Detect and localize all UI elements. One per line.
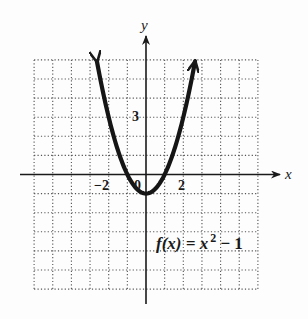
x-tick-label-neg2: −2	[94, 178, 109, 193]
formula-body: (x) = x	[162, 234, 209, 253]
x-tick-label-2: 2	[178, 178, 185, 193]
axes	[20, 36, 280, 304]
origin-label: 0	[134, 178, 141, 193]
x-axis-label: x	[284, 166, 292, 182]
formula-tail: − 1	[216, 234, 243, 253]
function-formula: f(x) = x2 − 1	[156, 231, 243, 253]
parabola-plot: y x −2 0 2 3 f(x) = x2 − 1	[0, 0, 308, 319]
y-axis-label: y	[139, 17, 148, 33]
graph-figure: y x −2 0 2 3 f(x) = x2 − 1	[0, 0, 308, 319]
y-tick-label-3: 3	[132, 109, 139, 124]
